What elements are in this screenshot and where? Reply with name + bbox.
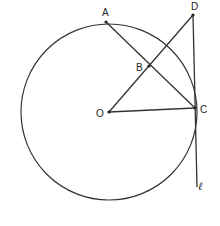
label-a: A	[102, 7, 109, 18]
label-b: B	[136, 62, 143, 73]
label-c: C	[200, 104, 207, 115]
label-o: O	[96, 108, 104, 119]
label-l: ℓ	[198, 180, 203, 193]
geometry-diagram: A B C D O ℓ	[0, 0, 220, 226]
segment-od	[109, 15, 193, 112]
point-b	[147, 64, 150, 67]
point-o	[107, 110, 110, 113]
label-d: D	[191, 1, 198, 12]
point-d	[191, 13, 194, 16]
point-a	[104, 20, 107, 23]
segment-oc	[109, 108, 195, 112]
point-c	[193, 106, 196, 109]
